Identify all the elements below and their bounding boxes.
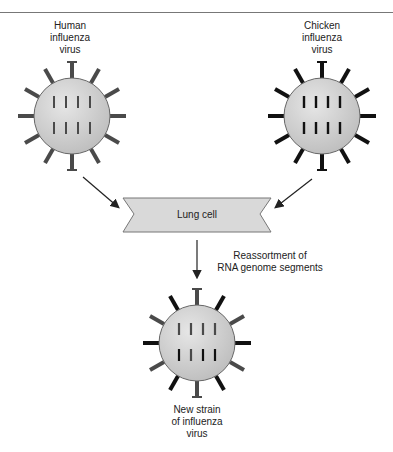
label-line: Reassortment of — [210, 250, 330, 262]
human-virus-icon — [18, 62, 126, 170]
chicken-virus-icon — [268, 62, 376, 170]
arrow-chicken-to-cell — [276, 179, 312, 207]
label-line: RNA genome segments — [210, 262, 330, 274]
label-line: of influenza — [147, 416, 247, 428]
new-strain-label: New strain of influenza virus — [147, 404, 247, 440]
new-strain-virus-icon — [143, 289, 251, 397]
label-line: New strain — [147, 404, 247, 416]
diagram-canvas — [0, 0, 393, 452]
lung-cell-label: Lung cell — [147, 209, 247, 221]
reassortment-label: Reassortment of RNA genome segments — [210, 250, 330, 274]
label-line: virus — [147, 428, 247, 440]
arrow-human-to-cell — [83, 177, 118, 207]
